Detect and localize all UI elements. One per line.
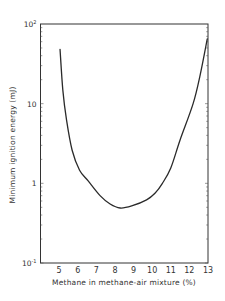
- x-tick-label: 11: [166, 266, 176, 275]
- y-tick-label: 10-1: [22, 258, 37, 268]
- plot-frame: [41, 24, 209, 263]
- y-tick-label: 102: [24, 19, 37, 29]
- x-tick-label: 6: [75, 266, 80, 275]
- x-axis-label: Methane in methane-air mixture (%): [52, 278, 196, 287]
- x-tick-label: 13: [203, 266, 213, 275]
- data-line: [60, 39, 207, 208]
- x-tick-label: 10: [147, 266, 157, 275]
- y-tick-label: 10: [27, 99, 37, 108]
- chart-canvas: [0, 0, 225, 301]
- x-tick-label: 12: [184, 266, 194, 275]
- minor-ticks: [41, 28, 209, 263]
- x-tick-label: 8: [112, 266, 117, 275]
- y-tick-label: 1: [32, 179, 37, 188]
- y-axis-label: Minimum ignition energy (mJ): [8, 86, 17, 203]
- x-tick-label: 5: [57, 266, 62, 275]
- x-tick-label: 9: [131, 266, 136, 275]
- x-tick-label: 7: [94, 266, 99, 275]
